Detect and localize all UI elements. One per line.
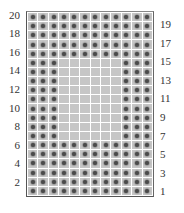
bead-dot-icon xyxy=(31,189,35,193)
bead-dot-icon xyxy=(93,171,97,175)
grid-cell xyxy=(122,77,131,85)
grid-cell xyxy=(91,77,100,85)
grid-cell xyxy=(101,68,110,76)
bead-dot-icon xyxy=(124,125,128,129)
bead-dot-icon xyxy=(124,70,128,74)
right-row-label: 1 xyxy=(160,186,166,197)
right-row-label: 15 xyxy=(160,56,171,67)
bead-dot-icon xyxy=(31,24,35,28)
bead-dot-icon xyxy=(41,52,45,56)
bead-dot-icon xyxy=(31,43,35,47)
grid-cell xyxy=(49,50,58,58)
grid-cell xyxy=(101,77,110,85)
grid-cell xyxy=(101,178,110,186)
grid-cell xyxy=(122,104,131,112)
left-row-label: 18 xyxy=(9,28,20,39)
grid-cell xyxy=(132,187,141,195)
grid-cell xyxy=(122,22,131,30)
grid-cell xyxy=(132,159,141,167)
right-row-label: 19 xyxy=(160,19,171,30)
bead-dot-icon xyxy=(31,79,35,83)
bead-dot-icon xyxy=(41,107,45,111)
grid-cell xyxy=(59,141,68,149)
bead-dot-icon xyxy=(135,15,139,19)
bead-dot-icon xyxy=(114,171,118,175)
bead-dot-icon xyxy=(83,161,87,165)
grid-cell xyxy=(59,68,68,76)
bead-dot-icon xyxy=(104,180,108,184)
grid-cell xyxy=(59,187,68,195)
right-row-label: 5 xyxy=(160,149,166,160)
bead-dot-icon xyxy=(41,125,45,129)
grid-cell xyxy=(91,95,100,103)
bead-dot-icon xyxy=(83,152,87,156)
grid-cell xyxy=(91,150,100,158)
bead-dot-icon xyxy=(52,134,56,138)
bead-dot-icon xyxy=(72,171,76,175)
bead-dot-icon xyxy=(124,152,128,156)
bead-dot-icon xyxy=(145,33,149,37)
grid-cell xyxy=(80,150,89,158)
grid-cell xyxy=(91,132,100,140)
bead-dot-icon xyxy=(31,116,35,120)
grid-cell xyxy=(91,68,100,76)
grid-cell xyxy=(132,178,141,186)
grid-cell xyxy=(28,50,37,58)
grid-cell xyxy=(111,68,120,76)
grid-cell xyxy=(28,123,37,131)
bead-dot-icon xyxy=(31,33,35,37)
bead-dot-icon xyxy=(135,61,139,65)
grid-cell xyxy=(122,59,131,67)
bead-dot-icon xyxy=(72,52,76,56)
grid-cell xyxy=(49,159,58,167)
bead-dot-icon xyxy=(135,116,139,120)
grid-cell xyxy=(80,68,89,76)
bead-dot-icon xyxy=(124,43,128,47)
grid-cell xyxy=(59,77,68,85)
grid-cell xyxy=(91,86,100,94)
grid-cell xyxy=(70,123,79,131)
bead-dot-icon xyxy=(41,161,45,165)
grid-cell xyxy=(111,178,120,186)
bead-dot-icon xyxy=(135,171,139,175)
bead-dot-icon xyxy=(145,116,149,120)
grid-cell xyxy=(122,159,131,167)
grid-cell xyxy=(91,114,100,122)
bead-dot-icon xyxy=(31,125,35,129)
bead-dot-icon xyxy=(93,43,97,47)
bead-dot-icon xyxy=(52,88,56,92)
grid-cell xyxy=(70,77,79,85)
grid-cell xyxy=(59,13,68,21)
grid-cell xyxy=(49,95,58,103)
grid-cell xyxy=(143,50,152,58)
bead-dot-icon xyxy=(93,33,97,37)
bead-dot-icon xyxy=(31,134,35,138)
right-row-label: 7 xyxy=(160,131,166,142)
grid-cell xyxy=(111,40,120,48)
grid-cell xyxy=(59,114,68,122)
grid-cell xyxy=(132,104,141,112)
bead-dot-icon xyxy=(83,189,87,193)
grid-cell xyxy=(59,31,68,39)
grid-cell xyxy=(101,13,110,21)
bead-dot-icon xyxy=(31,52,35,56)
grid-cell xyxy=(70,68,79,76)
grid-cell xyxy=(91,169,100,177)
grid-cell xyxy=(28,150,37,158)
bead-dot-icon xyxy=(83,171,87,175)
grid-cell xyxy=(80,50,89,58)
bead-dot-icon xyxy=(62,152,66,156)
grid-cell xyxy=(91,22,100,30)
grid-cell xyxy=(91,187,100,195)
grid-cell xyxy=(143,77,152,85)
grid-cell xyxy=(28,31,37,39)
bead-dot-icon xyxy=(41,97,45,101)
bead-dot-icon xyxy=(31,15,35,19)
grid-cell xyxy=(38,31,47,39)
grid-cell xyxy=(91,13,100,21)
grid-cell xyxy=(91,104,100,112)
grid-cell xyxy=(111,123,120,131)
grid-cell xyxy=(132,86,141,94)
grid-cell xyxy=(111,104,120,112)
grid-cell xyxy=(101,159,110,167)
